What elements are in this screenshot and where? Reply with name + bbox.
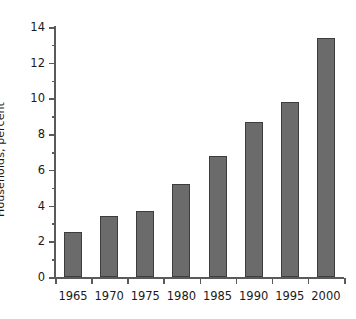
x-tick-mark — [272, 278, 274, 284]
y-tick-label: 12 — [30, 55, 45, 71]
y-tick-mark — [49, 206, 55, 208]
bar-2000 — [317, 38, 335, 277]
x-tick-label-1980: 1980 — [167, 288, 196, 304]
y-tick-label: 6 — [38, 162, 45, 178]
bar-chart: Households, percent 02468101214 19651970… — [0, 0, 356, 319]
bar-1970 — [100, 216, 118, 277]
y-tick-mark — [49, 27, 55, 29]
x-tick-mark — [127, 278, 129, 284]
x-tick-label-1975: 1975 — [131, 288, 160, 304]
x-tick-mark — [91, 278, 93, 284]
y-tick-label: 14 — [30, 19, 45, 35]
y-axis-title: Households, percent — [0, 0, 54, 319]
plot-area: 02468101214 — [55, 27, 344, 277]
x-tick-label-1990: 1990 — [239, 288, 268, 304]
x-tick-label-2000: 2000 — [311, 288, 340, 304]
y-tick-mark — [52, 152, 56, 154]
bar-1965 — [64, 232, 82, 277]
bar-1985 — [209, 156, 227, 277]
x-tick-label-1970: 1970 — [95, 288, 124, 304]
bar-1995 — [281, 102, 299, 277]
y-tick-mark — [49, 170, 55, 172]
y-tick-mark — [52, 81, 56, 83]
y-tick-mark — [52, 259, 56, 261]
y-tick-label: 0 — [38, 269, 45, 285]
y-tick-label: 4 — [38, 198, 45, 214]
y-tick-label: 8 — [38, 126, 45, 142]
y-tick-mark — [49, 241, 55, 243]
x-tick-label-1985: 1985 — [203, 288, 232, 304]
x-tick-mark — [55, 278, 57, 284]
y-tick-mark — [52, 45, 56, 47]
x-tick-mark — [308, 278, 310, 284]
y-tick-label: 2 — [38, 233, 45, 249]
x-tick-mark — [200, 278, 202, 284]
y-tick-mark — [52, 116, 56, 118]
bar-1990 — [245, 122, 263, 277]
x-axis-ticks-and-labels: 19651970197519801985199019952000 — [55, 278, 344, 318]
bar-1980 — [172, 184, 190, 277]
x-tick-mark — [236, 278, 238, 284]
y-tick-label: 10 — [30, 90, 45, 106]
x-tick-mark — [344, 278, 346, 284]
y-tick-mark — [49, 98, 55, 100]
y-tick-mark — [52, 188, 56, 190]
y-tick-mark — [49, 63, 55, 65]
bar-1975 — [136, 211, 154, 277]
x-tick-label-1995: 1995 — [275, 288, 304, 304]
x-tick-mark — [163, 278, 165, 284]
y-tick-mark — [52, 223, 56, 225]
y-tick-mark — [49, 134, 55, 136]
x-tick-label-1965: 1965 — [58, 288, 87, 304]
